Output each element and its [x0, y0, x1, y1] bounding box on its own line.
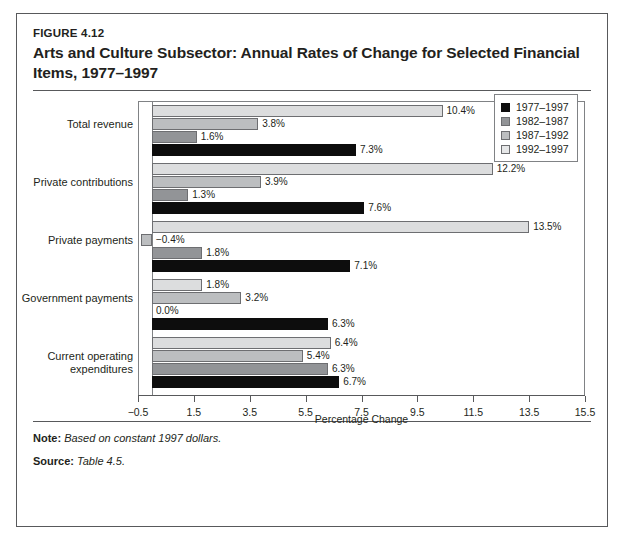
bar-value-label: 7.1%	[354, 260, 377, 272]
bar-value-label: 0.0%	[156, 305, 179, 317]
bar-value-label: 6.7%	[343, 376, 366, 388]
legend-label: 1977–1997	[516, 101, 569, 113]
bar	[152, 189, 188, 201]
bar-value-label: 3.2%	[245, 292, 268, 304]
bar-value-label: 12.2%	[497, 163, 525, 175]
category-label: Private contributions	[17, 176, 133, 189]
bar-value-label: 1.3%	[192, 189, 215, 201]
bar-value-label: 3.9%	[265, 176, 288, 188]
x-axis-title: Percentage Change	[138, 413, 585, 425]
bar	[152, 176, 261, 188]
bar	[152, 350, 303, 362]
category-axis-labels: Total revenuePrivate contributionsPrivat…	[17, 101, 133, 396]
bar	[152, 376, 339, 388]
legend-swatch-icon	[501, 103, 510, 112]
legend-swatch-icon	[501, 117, 510, 126]
bar	[152, 202, 364, 214]
x-tick-mark	[250, 396, 251, 402]
legend-item: 1982–1987	[501, 114, 569, 128]
legend-swatch-icon	[501, 131, 510, 140]
legend-swatch-icon	[501, 145, 510, 154]
bar	[141, 234, 152, 246]
bar	[152, 105, 443, 117]
bar	[152, 292, 241, 304]
x-tick-mark	[362, 396, 363, 402]
note-line: Note: Based on constant 1997 dollars.	[33, 431, 591, 445]
bar-value-label: 10.4%	[447, 105, 475, 117]
note-text: Based on constant 1997 dollars.	[61, 432, 221, 444]
bar-value-label: 6.3%	[332, 363, 355, 375]
x-tick-mark	[585, 396, 586, 402]
bar	[152, 363, 328, 375]
bar-value-label: 6.4%	[335, 337, 358, 349]
figure-number: FIGURE 4.12	[33, 26, 591, 40]
bar-value-label: 6.3%	[332, 318, 355, 330]
category-label: Private payments	[17, 234, 133, 247]
x-tick-mark	[473, 396, 474, 402]
legend-item: 1992–1997	[501, 142, 569, 156]
x-tick-mark	[529, 396, 530, 402]
x-tick-mark	[194, 396, 195, 402]
source-label: Source:	[33, 455, 74, 467]
source-line: Source: Table 4.5.	[33, 454, 591, 468]
bar-value-label: 1.6%	[201, 131, 224, 143]
figure-title: Arts and Culture Subsector: Annual Rates…	[33, 43, 591, 82]
bar-value-label: 13.5%	[533, 221, 561, 233]
bar	[152, 337, 331, 349]
x-tick-mark	[417, 396, 418, 402]
source-text: Table 4.5.	[74, 455, 125, 467]
bar	[152, 279, 202, 291]
chart-legend: 1977–19971982–19871987–19921992–1997	[494, 94, 578, 162]
chart-area: Total revenuePrivate contributionsPrivat…	[17, 91, 609, 421]
bar	[152, 221, 529, 233]
legend-label: 1992–1997	[516, 143, 569, 155]
x-tick-mark	[306, 396, 307, 402]
figure-container: FIGURE 4.12 Arts and Culture Subsector: …	[16, 13, 608, 527]
bar-value-label: 7.3%	[360, 144, 383, 156]
bar-value-label: 5.4%	[307, 350, 330, 362]
bar-value-label: 7.6%	[368, 202, 391, 214]
category-label: Current operating expenditures	[17, 350, 133, 376]
bar-value-label: −0.4%	[156, 234, 185, 246]
bar	[152, 163, 493, 175]
legend-label: 1987–1992	[516, 129, 569, 141]
bar	[152, 144, 356, 156]
legend-item: 1977–1997	[501, 100, 569, 114]
bar	[152, 247, 202, 259]
note-label: Note:	[33, 432, 61, 444]
category-label: Total revenue	[17, 118, 133, 131]
bar-value-label: 1.8%	[206, 279, 229, 291]
bar	[152, 260, 350, 272]
figure-footer: Note: Based on constant 1997 dollars. So…	[17, 422, 607, 468]
bar	[152, 131, 197, 143]
bar-value-label: 1.8%	[206, 247, 229, 259]
bar-value-label: 3.8%	[262, 118, 285, 130]
legend-label: 1982–1987	[516, 115, 569, 127]
x-tick-mark	[138, 396, 139, 402]
bar	[152, 118, 258, 130]
figure-header: FIGURE 4.12 Arts and Culture Subsector: …	[17, 14, 607, 82]
bar	[152, 318, 328, 330]
category-label: Government payments	[17, 292, 133, 305]
legend-item: 1987–1992	[501, 128, 569, 142]
